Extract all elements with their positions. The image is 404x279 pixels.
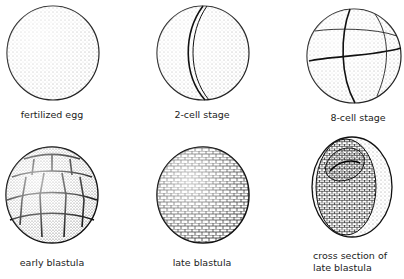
cross-section-late-blastula-illustration <box>308 135 398 240</box>
label-early-blastula: early blastula <box>10 257 94 269</box>
label-2-cell-stage: 2-cell stage <box>160 109 244 121</box>
label-late-blastula: late blastula <box>160 257 244 269</box>
late-blastula-illustration <box>155 145 251 245</box>
two-cell-stage-illustration <box>155 3 251 103</box>
early-blastula-illustration <box>4 145 100 245</box>
fertilized-egg-illustration <box>4 3 100 101</box>
eight-cell-stage-illustration <box>305 6 403 106</box>
label-8-cell-stage: 8-cell stage <box>316 112 400 124</box>
label-cross-section-line2: late blastula <box>313 262 372 274</box>
label-cross-section-line1: cross section of <box>313 250 387 262</box>
label-fertilized-egg: fertilized egg <box>10 109 94 121</box>
